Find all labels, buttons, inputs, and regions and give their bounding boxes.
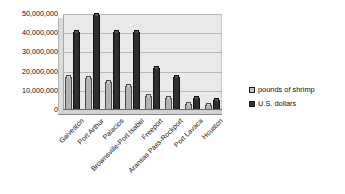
bar-group	[143, 14, 163, 110]
legend-label: U.S. dollars	[258, 100, 296, 107]
bar-top-cap	[154, 66, 159, 69]
bar-us-dollars	[93, 15, 100, 110]
bar-top-cap	[186, 102, 191, 105]
x-axis-tick-label: Houston	[201, 117, 224, 140]
bar-group	[162, 14, 182, 110]
chart-floor	[58, 110, 222, 115]
bar-top-cap	[126, 84, 131, 87]
bar-group	[182, 14, 202, 110]
bar-top-cap	[134, 30, 139, 33]
bar-group	[123, 14, 143, 110]
bar-group	[103, 14, 123, 110]
bars-layer	[63, 14, 222, 110]
legend-item: pounds of shrimp	[249, 86, 315, 93]
x-axis-tick-label: Freeport	[141, 117, 165, 141]
bar-top-cap	[94, 13, 99, 16]
y-axis-tick-label: 40,000,000	[22, 30, 58, 37]
bar-pounds-of-shrimp	[105, 82, 112, 110]
bar-us-dollars	[73, 32, 80, 110]
bar-us-dollars	[133, 32, 140, 110]
bar-top-cap	[194, 96, 199, 99]
x-axis-tick-label: Galveston	[58, 117, 85, 144]
legend-label: pounds of shrimp	[258, 86, 315, 93]
bar-top-cap	[86, 76, 91, 79]
bar-top-cap	[66, 75, 71, 78]
legend-swatch-icon	[249, 87, 255, 93]
bar-top-cap	[174, 75, 179, 78]
bar-pounds-of-shrimp	[65, 77, 72, 110]
legend: pounds of shrimpU.S. dollars	[249, 86, 315, 115]
y-axis-tick-label: 10,000,000	[22, 87, 58, 94]
bar-group	[83, 14, 103, 110]
y-axis-tick-label: 50,000,000	[22, 10, 58, 17]
bar-top-cap	[146, 94, 151, 97]
y-axis-tick-label: 20,000,000	[22, 68, 58, 75]
bar-top-cap	[106, 80, 111, 83]
bar-top-cap	[114, 30, 119, 33]
legend-swatch-icon	[249, 101, 255, 107]
bar-us-dollars	[173, 77, 180, 110]
plot-area	[63, 14, 222, 110]
bar-pounds-of-shrimp	[125, 86, 132, 110]
bar-top-cap	[214, 98, 219, 101]
bar-group	[63, 14, 83, 110]
y-axis-tick-label: 30,000,000	[22, 49, 58, 56]
bar-top-cap	[206, 103, 211, 106]
bar-pounds-of-shrimp	[145, 96, 152, 110]
x-axis-tick-label: Palacios	[101, 117, 125, 141]
bar-chart: 50,000,00040,000,00030,000,00020,000,000…	[0, 0, 345, 194]
bar-top-cap	[74, 30, 79, 33]
legend-item: U.S. dollars	[249, 100, 315, 107]
x-axis-tick-label: Port Arthur	[76, 117, 105, 146]
x-axis-line	[63, 109, 222, 110]
bar-group	[202, 14, 222, 110]
x-axis-tick-label: Brownsville-Port Isabel	[89, 117, 144, 172]
bar-us-dollars	[153, 68, 160, 110]
bar-us-dollars	[113, 32, 120, 110]
y-axis: 50,000,00040,000,00030,000,00020,000,000…	[0, 0, 58, 194]
bar-top-cap	[166, 96, 171, 99]
x-axis-tick-label: Port Lavaca	[173, 117, 204, 148]
x-axis-tick-label: Aransas Pass-Rockport	[127, 117, 184, 174]
bar-pounds-of-shrimp	[85, 78, 92, 110]
